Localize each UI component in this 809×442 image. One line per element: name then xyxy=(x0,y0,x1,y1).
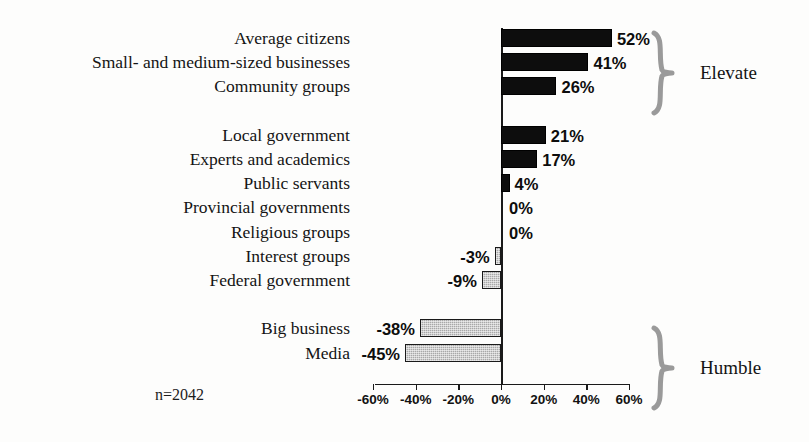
bar-negative xyxy=(495,247,501,265)
bar-value-label: 21% xyxy=(551,127,584,145)
bar-negative xyxy=(405,344,501,362)
bar-positive xyxy=(501,77,556,95)
bar-value-label: -9% xyxy=(447,272,476,290)
elevate-group-label: Elevate xyxy=(700,62,757,84)
plot-area: 52%41%26%21%17%4%0%0%-3%-9%-38%-45% -60%… xyxy=(0,0,809,442)
x-axis-tick xyxy=(586,384,587,390)
x-axis-tick xyxy=(458,384,459,390)
bar-positive xyxy=(501,126,546,144)
x-axis-tick xyxy=(629,384,630,390)
humble-group-label: Humble xyxy=(700,357,761,379)
humble-brace xyxy=(648,325,682,411)
x-axis-tick xyxy=(416,384,417,390)
bar-negative xyxy=(482,271,501,289)
bar-value-label: 0% xyxy=(509,199,533,217)
bar-value-label: 52% xyxy=(617,30,650,48)
bar-positive xyxy=(501,174,510,192)
bar-value-label: 0% xyxy=(509,224,533,242)
x-axis-tick xyxy=(544,384,545,390)
bar-value-label: -38% xyxy=(376,320,415,338)
bar-value-label: -45% xyxy=(361,345,400,363)
bar-value-label: 17% xyxy=(542,151,575,169)
bar-value-label: 26% xyxy=(561,78,594,96)
sample-size-note: n=2042 xyxy=(155,386,204,404)
bar-value-label: 4% xyxy=(515,175,539,193)
bar-value-label: -3% xyxy=(460,248,489,266)
bar-negative xyxy=(420,319,501,337)
bar-value-label: 41% xyxy=(593,54,626,72)
x-axis-tick xyxy=(501,384,502,390)
bar-positive xyxy=(501,150,537,168)
x-axis-tick xyxy=(373,384,374,390)
bar-positive xyxy=(501,53,588,71)
elevate-brace xyxy=(648,30,682,116)
chart-figure: Average citizensSmall- and medium-sized … xyxy=(0,0,809,442)
bar-positive xyxy=(501,29,612,47)
